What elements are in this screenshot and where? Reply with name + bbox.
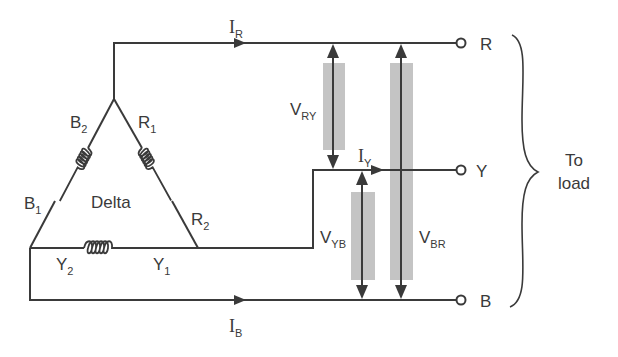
terminal-r-label: R [480, 35, 492, 54]
terminal-r [457, 39, 466, 48]
diagram-canvas: IR IY IB VRY VYB VBR B2 R1 B1 R2 Y2 Y1 D… [0, 0, 618, 357]
v-br-label: VBR [419, 228, 446, 250]
i-y-label: IY [358, 146, 372, 169]
terminal-y-label: Y [476, 162, 487, 181]
b2-label: B2 [70, 113, 87, 135]
winding-b-coil [56, 146, 93, 204]
delta-connection-diagram: IR IY IB VRY VYB VBR B2 R1 B1 R2 Y2 Y1 D… [0, 0, 618, 357]
i-y-arrow [371, 165, 384, 175]
terminal-b-label: B [480, 292, 491, 311]
r2-label: R2 [191, 210, 209, 232]
b2-lead [88, 99, 114, 148]
terminal-y [457, 166, 466, 175]
winding-r-coil [137, 146, 175, 204]
y1-label: Y1 [153, 255, 170, 277]
delta-label: Delta [91, 193, 131, 212]
y2-label: Y2 [56, 255, 73, 277]
v-ry-label: VRY [290, 100, 317, 122]
to-load-label-line1: To [565, 151, 583, 170]
winding-y-coil [84, 241, 142, 253]
v-yb-label: VYB [320, 228, 346, 250]
terminal-b [457, 296, 466, 305]
i-r-label: IR [229, 17, 243, 40]
load-brace [510, 35, 538, 307]
r1-label: R1 [138, 113, 156, 135]
i-b-label: IB [229, 316, 242, 339]
to-load-label-line2: load [558, 174, 590, 193]
i-b-arrow [234, 295, 246, 305]
b1-label: B1 [24, 194, 41, 216]
